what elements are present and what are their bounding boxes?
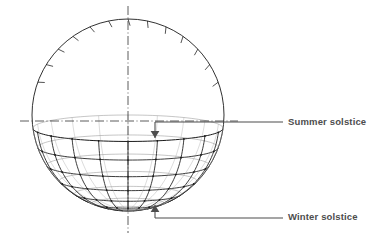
grid-node: [200, 154, 202, 156]
winter-solstice-label: Winter solstice: [288, 211, 358, 222]
grid-node: [171, 197, 173, 199]
grid-node: [213, 150, 215, 152]
grid-node: [84, 197, 86, 199]
grid-node: [218, 131, 220, 133]
grid-node: [41, 150, 43, 152]
arc-tick-mark: [109, 21, 112, 27]
arc-tick-mark: [165, 27, 166, 34]
arc-tick-mark: [73, 36, 79, 40]
grid-node: [168, 188, 170, 190]
grid-node: [106, 189, 108, 191]
grid-node: [54, 154, 56, 156]
grid-node: [193, 171, 195, 173]
grid-node: [204, 135, 206, 137]
grid-node: [205, 168, 207, 170]
grid-node: [116, 207, 118, 209]
arc-tick-mark: [194, 49, 197, 55]
axes-group: [20, 6, 238, 233]
summer-solstice-label: Summer solstice: [288, 116, 366, 127]
grid-node: [71, 186, 73, 188]
grid-node: [111, 200, 113, 202]
grid-node: [155, 159, 157, 161]
arc-tick-mark: [147, 21, 148, 28]
grid-node: [79, 174, 81, 176]
grid-node: [37, 131, 39, 133]
grid-node: [159, 199, 161, 201]
meridian-far: [129, 120, 205, 209]
grid-node: [156, 140, 158, 142]
grid-node: [87, 188, 89, 190]
grid-node: [183, 138, 185, 140]
grid-node: [99, 159, 101, 161]
sun-path-sphere-figure: Summer solstice Winter solstice: [0, 0, 382, 248]
meridian-far: [51, 120, 127, 209]
arc-tick-mark: [181, 36, 183, 43]
grid-node: [152, 175, 154, 177]
arc-tick-mark: [213, 82, 219, 86]
grid-node: [61, 183, 63, 185]
grid-node: [102, 175, 104, 177]
grid-node: [183, 186, 185, 188]
parallel-back: [33, 115, 128, 128]
grid-node: [193, 183, 195, 185]
arc-tick-mark: [46, 65, 53, 67]
grid-node: [61, 171, 63, 173]
grid-node: [50, 168, 52, 170]
grid-node: [71, 138, 73, 140]
grid-node: [96, 199, 98, 201]
grid-node: [148, 189, 150, 191]
grid-node: [50, 135, 52, 137]
grid-node: [138, 207, 140, 209]
grid-node: [144, 200, 146, 202]
grid-node: [175, 174, 177, 176]
arc-tick-mark: [58, 49, 64, 52]
grid-node: [180, 157, 182, 159]
arrowhead-summer: [151, 131, 160, 138]
grid-node: [106, 206, 108, 208]
arc-tick-mark: [90, 27, 95, 32]
arc-tick-mark: [205, 65, 210, 70]
grid-node: [148, 206, 150, 208]
grid-node: [98, 140, 100, 142]
grid-node: [74, 157, 76, 159]
